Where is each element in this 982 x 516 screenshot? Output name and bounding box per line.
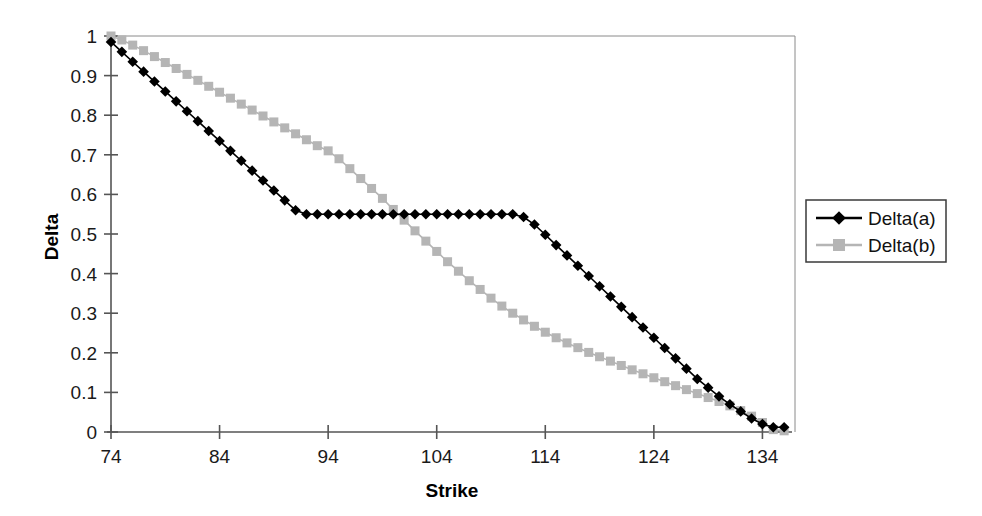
series-marker xyxy=(291,129,300,138)
series-deltaa xyxy=(106,37,790,433)
x-tick-label: 74 xyxy=(100,446,122,467)
legend-label-2: Delta(b) xyxy=(868,235,936,256)
series-marker xyxy=(518,212,529,223)
series-marker xyxy=(464,209,475,220)
series-marker xyxy=(366,209,377,220)
legend-marker-2 xyxy=(833,239,845,251)
series-marker xyxy=(682,385,691,394)
series-marker xyxy=(617,361,626,370)
series-marker xyxy=(595,352,604,361)
series-marker xyxy=(323,209,334,220)
series-marker xyxy=(649,373,658,382)
y-tick-label: 0.9 xyxy=(71,66,97,87)
y-axis-title: Delta xyxy=(41,213,62,260)
series-marker xyxy=(335,154,344,163)
y-tick-label: 0.5 xyxy=(71,224,97,245)
series-deltab xyxy=(107,32,789,436)
series-marker xyxy=(563,338,572,347)
series-marker xyxy=(139,46,148,55)
chart-figure: 00.10.20.30.40.50.60.70.80.91 7484941041… xyxy=(0,0,982,516)
series-marker xyxy=(573,343,582,352)
series-marker xyxy=(215,88,224,97)
series-marker xyxy=(541,328,550,337)
series-marker xyxy=(226,94,235,103)
series-marker xyxy=(324,146,333,155)
series-marker xyxy=(519,315,528,324)
plot-frame xyxy=(111,36,795,432)
series-marker xyxy=(248,106,257,115)
series-marker xyxy=(259,111,268,120)
series-marker xyxy=(161,58,170,67)
x-tick-label: 134 xyxy=(747,446,779,467)
y-tick-label: 0.8 xyxy=(71,105,97,126)
series-marker xyxy=(269,117,278,126)
series-marker xyxy=(508,309,517,318)
x-tick-label: 84 xyxy=(209,446,231,467)
series-marker xyxy=(453,209,464,220)
series-marker xyxy=(183,70,192,79)
y-tick-label: 0.1 xyxy=(71,382,97,403)
series-marker xyxy=(639,369,648,378)
x-tick-label: 104 xyxy=(421,446,453,467)
series-marker xyxy=(313,141,322,150)
series-marker xyxy=(497,209,508,220)
y-axis: 00.10.20.30.40.50.60.70.80.91 xyxy=(71,26,118,443)
series-marker xyxy=(411,226,420,235)
x-axis: 748494104114124134 xyxy=(100,425,792,467)
series-marker xyxy=(172,64,181,73)
x-tick-label: 124 xyxy=(638,446,670,467)
series-marker xyxy=(465,276,474,285)
series-marker xyxy=(442,209,453,220)
series-marker xyxy=(454,267,463,276)
y-tick-label: 0.2 xyxy=(71,343,97,364)
series-marker xyxy=(204,82,213,91)
series-marker xyxy=(432,247,441,256)
series-marker xyxy=(487,294,496,303)
y-tick-label: 1 xyxy=(86,26,97,47)
series-marker xyxy=(378,194,387,203)
series-marker xyxy=(584,348,593,357)
series-marker xyxy=(497,302,506,311)
y-tick-label: 0 xyxy=(86,422,97,443)
series-marker xyxy=(693,389,702,398)
series-marker xyxy=(443,257,452,266)
x-tick-label: 114 xyxy=(530,446,561,467)
series-marker xyxy=(660,377,669,386)
series-marker xyxy=(377,209,388,220)
series-marker xyxy=(150,52,159,61)
series-marker xyxy=(334,209,345,220)
series-marker xyxy=(302,135,311,144)
series-marker xyxy=(301,209,312,220)
series-marker xyxy=(671,381,680,390)
series-marker xyxy=(530,322,539,331)
series-marker xyxy=(345,209,356,220)
delta-vs-strike-chart: 00.10.20.30.40.50.60.70.80.91 7484941041… xyxy=(0,0,982,516)
legend-label-1: Delta(a) xyxy=(868,208,936,229)
series-marker xyxy=(628,365,637,374)
data-series-layer xyxy=(106,32,790,436)
x-tick-label: 94 xyxy=(318,446,340,467)
series-marker xyxy=(704,393,713,402)
series-marker xyxy=(117,35,126,44)
series-marker xyxy=(421,237,430,246)
series-marker xyxy=(355,209,366,220)
series-marker xyxy=(237,100,246,109)
series-marker xyxy=(475,209,486,220)
series-line xyxy=(111,36,784,431)
y-tick-label: 0.7 xyxy=(71,145,97,166)
series-marker xyxy=(312,209,323,220)
x-axis-title: Strike xyxy=(426,480,479,501)
series-marker xyxy=(552,333,561,342)
chart-legend[interactable]: Delta(a)Delta(b) xyxy=(806,200,946,262)
series-marker xyxy=(193,76,202,85)
series-marker xyxy=(410,209,421,220)
series-marker xyxy=(367,184,376,193)
y-tick-label: 0.4 xyxy=(71,264,98,285)
series-marker xyxy=(421,209,432,220)
y-tick-label: 0.3 xyxy=(71,303,97,324)
series-marker xyxy=(476,285,485,294)
series-marker xyxy=(431,209,442,220)
y-tick-label: 0.6 xyxy=(71,184,97,205)
series-marker xyxy=(486,209,497,220)
series-marker xyxy=(507,209,518,220)
